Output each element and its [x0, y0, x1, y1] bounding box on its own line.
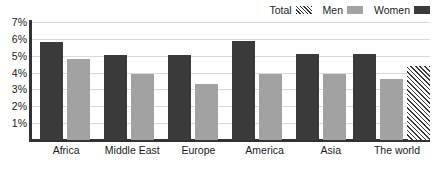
x-axis-category-label: Asia: [298, 145, 364, 157]
y-axis-tick-label: 1%: [12, 118, 27, 129]
y-axis-tick-label: 7%: [12, 17, 27, 28]
y-axis-tick-labels: 1%2%3%4%5%6%7%: [0, 22, 27, 140]
x-axis-category-label: Africa: [33, 145, 99, 157]
bar-men[interactable]: [67, 59, 90, 140]
bar-total[interactable]: [407, 66, 430, 140]
bar-women[interactable]: [168, 55, 191, 140]
y-axis-line: [29, 20, 32, 142]
x-axis-category-label: Middle East: [99, 145, 165, 157]
bar-women[interactable]: [104, 55, 127, 140]
bar-women[interactable]: [232, 41, 255, 140]
bar-men[interactable]: [195, 84, 218, 140]
bar-group: [225, 22, 289, 140]
x-axis-category-labels: AfricaMiddle EastEuropeAmericaAsiaThe wo…: [33, 145, 430, 157]
legend-label-women: Women: [374, 5, 410, 16]
x-axis-category-label: America: [232, 145, 298, 157]
bar-women[interactable]: [40, 42, 63, 140]
y-axis-tick-label: 6%: [12, 34, 27, 45]
legend-label-total: Total: [269, 5, 291, 16]
bar-men[interactable]: [259, 74, 282, 140]
total-swatch-icon: [296, 6, 312, 14]
bar-men[interactable]: [131, 74, 154, 140]
bar-group: [97, 22, 161, 140]
x-axis-category-label: The world: [364, 145, 430, 157]
men-swatch-icon: [347, 6, 363, 14]
bar-chart: Total Men Women 1%2%3%4%5%6%7% AfricaMid…: [0, 0, 436, 173]
x-axis-category-label: Europe: [165, 145, 231, 157]
women-swatch-icon: [414, 6, 430, 14]
y-axis-tick-label: 4%: [12, 67, 27, 78]
bar-women[interactable]: [296, 54, 319, 140]
chart-legend: Total Men Women: [269, 3, 430, 17]
y-axis-tick-label: 2%: [12, 101, 27, 112]
bar-group: [289, 22, 353, 140]
bar-men[interactable]: [380, 79, 403, 140]
bar-women[interactable]: [353, 54, 376, 140]
bar-group: [353, 22, 430, 140]
bar-groups: [33, 22, 430, 140]
legend-entry-total[interactable]: Total: [269, 5, 311, 16]
legend-entry-men[interactable]: Men: [323, 5, 363, 16]
y-axis-tick-label: 3%: [12, 84, 27, 95]
legend-entry-women[interactable]: Women: [374, 5, 430, 16]
bar-group: [33, 22, 97, 140]
bar-group: [161, 22, 225, 140]
bar-men[interactable]: [323, 74, 346, 140]
y-axis-tick-label: 5%: [12, 50, 27, 61]
legend-label-men: Men: [323, 5, 343, 16]
